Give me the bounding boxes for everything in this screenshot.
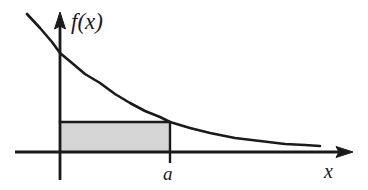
- figure-canvas: [0, 0, 368, 190]
- function-label: f(x): [71, 10, 103, 33]
- tick-label-a: a: [163, 164, 173, 183]
- shaded-rectangle: [60, 122, 170, 152]
- figure-container: f(x) a x: [0, 0, 368, 190]
- x-axis-arrow-icon: [336, 147, 353, 158]
- x-axis-label: x: [324, 161, 333, 181]
- y-axis-arrow-icon: [55, 12, 66, 29]
